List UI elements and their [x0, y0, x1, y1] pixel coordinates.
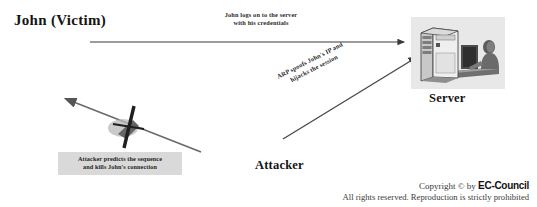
server-illustration: [411, 17, 505, 89]
kill-flow-line1: Attacker predicts the sequence: [78, 155, 162, 162]
attacker-label: Attacker: [255, 158, 304, 173]
victim-label: John (Victim): [14, 12, 106, 29]
server-tower-icon: [421, 28, 458, 83]
login-flow-line1: John logs on to the server: [225, 11, 298, 18]
footer: Copyright © by EC-Council All rights res…: [343, 180, 529, 203]
login-flow-label: John logs on to the server with his cred…: [196, 11, 326, 28]
kill-flow-note: Attacker predicts the sequence and kills…: [58, 152, 182, 175]
copyright-text: Copyright © by: [419, 181, 478, 191]
slide-canvas: John (Victim) Server Attacker John logs …: [0, 0, 537, 207]
kill-flow-line2: and kills John's connection: [83, 163, 157, 170]
ec-council-brand: EC-Council: [478, 180, 529, 191]
person-at-desk-icon: [455, 40, 499, 78]
copyright-line: Copyright © by EC-Council: [343, 180, 529, 192]
server-label: Server: [429, 91, 466, 106]
kill-flow-arrow: [66, 99, 201, 152]
rights-reserved-line: All rights reserved. Reproduction is str…: [343, 192, 529, 203]
login-flow-line2: with his credentials: [233, 19, 288, 26]
